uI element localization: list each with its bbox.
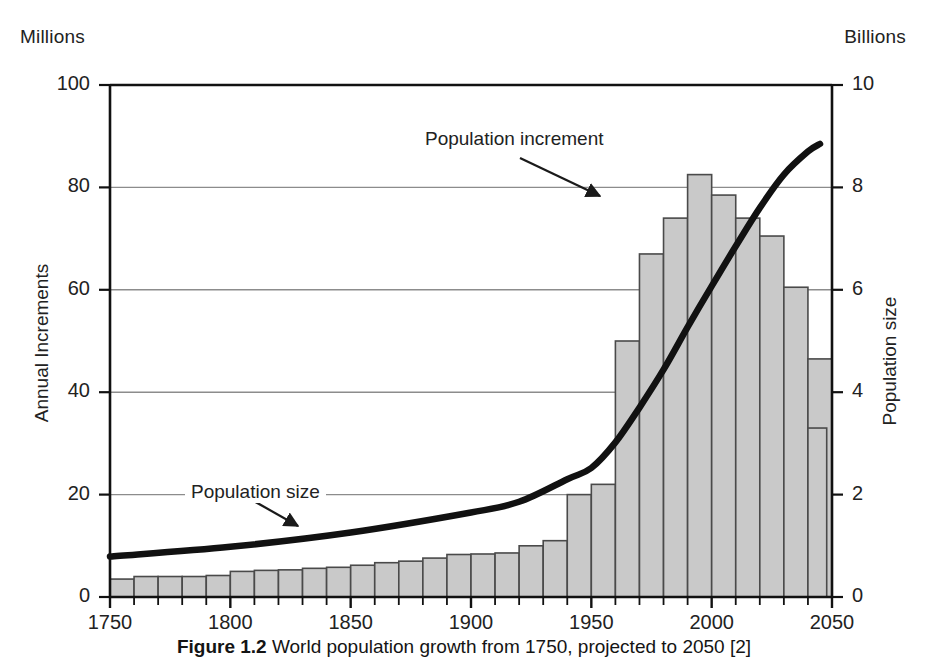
x-tick-label-1800: 1800 bbox=[185, 611, 275, 634]
bar-1760 bbox=[134, 577, 158, 597]
bar-1840 bbox=[327, 567, 351, 597]
y-tick-label-right-10: 10 bbox=[852, 72, 910, 95]
x-tick-label-1750: 1750 bbox=[65, 611, 155, 634]
annotation-arrows bbox=[252, 158, 600, 526]
bar-1940 bbox=[567, 495, 591, 597]
x-tick-label-2050: 2050 bbox=[787, 611, 877, 634]
bar-1880 bbox=[423, 558, 447, 597]
bar-1850 bbox=[351, 565, 375, 597]
y-tick-label-left-20: 20 bbox=[32, 482, 90, 505]
bar-2040-projection bbox=[808, 428, 827, 597]
bar-1780 bbox=[182, 577, 206, 597]
y-tick-label-left-100: 100 bbox=[32, 72, 90, 95]
bar-1950 bbox=[591, 484, 615, 597]
annotation-population-size: Population size bbox=[185, 481, 326, 503]
bar-1830 bbox=[303, 568, 327, 597]
figure-caption-number: Figure 1.2 bbox=[177, 636, 267, 657]
bar-1810 bbox=[254, 570, 278, 597]
figure-caption-text: World population growth from 1750, proje… bbox=[272, 636, 751, 657]
bar-1770 bbox=[158, 577, 182, 597]
y-tick-label-right-4: 4 bbox=[852, 379, 910, 402]
annotation-population-increment: Population increment bbox=[425, 128, 604, 150]
y-tick-label-left-80: 80 bbox=[32, 174, 90, 197]
bar-1970 bbox=[639, 254, 663, 597]
y-tick-label-right-2: 2 bbox=[852, 482, 910, 505]
bar-1860 bbox=[375, 563, 399, 597]
bar-1800 bbox=[230, 571, 254, 597]
left-axis-ticks bbox=[99, 85, 110, 597]
y-tick-label-left-40: 40 bbox=[32, 379, 90, 402]
x-tick-label-1900: 1900 bbox=[426, 611, 516, 634]
chart-plot-area bbox=[0, 0, 928, 659]
arrow-population-size bbox=[252, 500, 298, 526]
y-tick-label-left-60: 60 bbox=[32, 277, 90, 300]
bar-1960 bbox=[615, 341, 639, 597]
y-tick-label-right-6: 6 bbox=[852, 277, 910, 300]
bar-1910 bbox=[495, 553, 519, 597]
x-tick-label-1850: 1850 bbox=[306, 611, 396, 634]
bar-1930 bbox=[543, 541, 567, 597]
y-tick-label-right-0: 0 bbox=[852, 584, 910, 607]
bar-2010 bbox=[736, 218, 760, 597]
bar-2030 bbox=[784, 287, 808, 597]
figure-caption: Figure 1.2 World population growth from … bbox=[0, 636, 928, 658]
bar-1870 bbox=[399, 561, 423, 597]
right-axis-ticks bbox=[832, 85, 843, 597]
x-tick-label-2000: 2000 bbox=[667, 611, 757, 634]
bar-1790 bbox=[206, 575, 230, 597]
bar-1900 bbox=[471, 554, 495, 597]
bar-2020 bbox=[760, 236, 784, 597]
figure-world-population-growth: Millions Billions Annual Increments Popu… bbox=[0, 0, 928, 659]
bar-1990 bbox=[688, 175, 712, 597]
bar-1920 bbox=[519, 546, 543, 597]
bar-1980 bbox=[664, 218, 688, 597]
bar-1890 bbox=[447, 555, 471, 597]
x-tick-label-1950: 1950 bbox=[546, 611, 636, 634]
x-axis-ticks bbox=[110, 597, 832, 608]
y-tick-label-right-8: 8 bbox=[852, 174, 910, 197]
y-tick-label-left-0: 0 bbox=[32, 584, 90, 607]
bar-1750 bbox=[110, 579, 134, 597]
arrow-population-increment bbox=[520, 158, 600, 196]
bar-series-population-increment bbox=[110, 175, 832, 597]
bar-1820 bbox=[278, 570, 302, 597]
